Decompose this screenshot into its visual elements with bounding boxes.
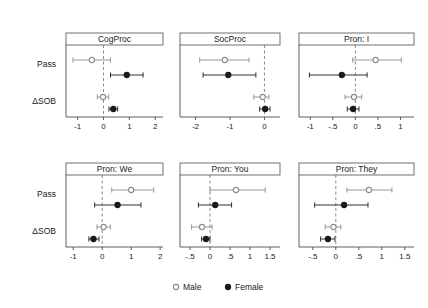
x-axis-tick-label: 0 — [262, 122, 267, 131]
point-marker-filled — [111, 106, 116, 111]
estimate-male-dsob — [97, 94, 108, 99]
x-axis-tick-label: .5 — [355, 252, 362, 261]
x-axis-tick-label: 0 — [101, 122, 106, 131]
panel-title: CogProc — [98, 34, 132, 44]
point-marker-filled — [124, 72, 129, 77]
point-marker-open — [199, 224, 204, 229]
legend: MaleFemale — [173, 282, 263, 292]
y-axis-category-label-dsob: ΔSOB — [32, 226, 56, 236]
y-axis-category-label-dsob: ΔSOB — [32, 96, 56, 106]
point-marker-filled — [213, 202, 218, 207]
point-marker-open — [331, 224, 336, 229]
estimate-male-pass — [73, 57, 111, 62]
point-marker-open — [222, 57, 227, 62]
point-marker-filled — [226, 72, 231, 77]
point-marker-filled — [91, 236, 96, 241]
legend-marker-male — [173, 284, 178, 289]
x-axis-tick-label: -.5 — [308, 252, 318, 261]
y-axis-category-label-pass: Pass — [37, 59, 56, 69]
estimate-male-pass — [200, 57, 249, 62]
x-axis-tick-label: .5 — [227, 252, 234, 261]
forest-plot-figure: CogProc-1012SocProc-2-10Pron: I-1-.50.51… — [0, 0, 428, 308]
point-marker-open — [129, 187, 134, 192]
x-axis-tick-label: -.5 — [185, 252, 195, 261]
panel-pron-they: Pron: They-.50.511.5 — [299, 163, 414, 261]
estimate-female-pass — [203, 72, 256, 77]
estimate-female-dsob — [202, 236, 210, 241]
legend-marker-female — [225, 284, 230, 289]
x-axis-tick-label: 2 — [158, 252, 163, 261]
estimate-female-dsob — [260, 106, 270, 111]
point-marker-filled — [341, 202, 346, 207]
panel-socproc: SocProc-2-10 — [180, 33, 280, 131]
estimate-female-pass — [309, 72, 367, 77]
point-marker-open — [366, 187, 371, 192]
estimate-male-dsob — [192, 224, 212, 229]
point-marker-open — [351, 94, 356, 99]
panel-pron-i: Pron: I-1-.50.51 — [299, 33, 414, 131]
x-axis-tick-label: 1 — [398, 122, 403, 131]
x-axis-tick-label: 2 — [153, 122, 158, 131]
x-axis-tick-label: 0 — [334, 252, 339, 261]
point-marker-filled — [339, 72, 344, 77]
estimate-male-pass — [353, 57, 402, 62]
x-axis-tick-label: 0 — [100, 252, 105, 261]
x-axis-tick-label: 0 — [208, 252, 213, 261]
point-marker-open — [260, 94, 265, 99]
x-axis-tick-label: 1 — [380, 252, 385, 261]
x-axis-tick-label: 1 — [127, 122, 132, 131]
estimate-male-pass — [347, 187, 392, 192]
panel-pron-we: Pron: We-1012 — [66, 163, 163, 261]
panel-title: SocProc — [214, 34, 247, 44]
estimate-male-dsob — [345, 94, 362, 99]
estimate-male-dsob — [325, 224, 341, 229]
estimate-female-pass — [95, 202, 141, 207]
estimate-male-pass — [210, 187, 265, 192]
estimate-female-pass — [315, 202, 368, 207]
point-marker-filled — [351, 106, 356, 111]
estimate-female-dsob — [347, 106, 359, 111]
x-axis-tick-label: -2 — [192, 122, 200, 131]
x-axis-tick-label: -1 — [226, 122, 234, 131]
y-axis-category-label-pass: Pass — [37, 189, 56, 199]
point-marker-filled — [325, 236, 330, 241]
x-axis-tick-label: .5 — [375, 122, 382, 131]
estimate-female-dsob — [109, 106, 118, 111]
panel-pron-you: Pron: You-.50.511.5 — [180, 163, 280, 261]
point-marker-open — [233, 187, 238, 192]
x-axis-tick-label: 1 — [129, 252, 134, 261]
panel-cogproc: CogProc-1012 — [66, 33, 163, 131]
point-marker-open — [89, 57, 94, 62]
panel-title: Pron: You — [212, 164, 249, 174]
estimate-female-pass — [198, 202, 231, 207]
x-axis-tick-label: -1 — [74, 122, 82, 131]
estimate-male-dsob — [97, 224, 110, 229]
point-marker-open — [373, 57, 378, 62]
legend-label-female: Female — [235, 282, 264, 292]
panel-title: Pron: I — [344, 34, 369, 44]
x-axis-tick-label: -.5 — [328, 122, 338, 131]
panel-title: Pron: They — [336, 164, 378, 174]
point-marker-filled — [203, 236, 208, 241]
point-marker-filled — [115, 202, 120, 207]
point-marker-open — [100, 94, 105, 99]
x-axis-tick-label: 1.5 — [399, 252, 411, 261]
estimate-male-pass — [112, 187, 154, 192]
x-axis-tick-label: -1 — [307, 122, 315, 131]
estimate-female-dsob — [89, 236, 99, 241]
x-axis-tick-label: 0 — [353, 122, 358, 131]
estimate-male-dsob — [254, 94, 269, 99]
estimate-female-pass — [110, 72, 143, 77]
point-marker-filled — [263, 106, 268, 111]
legend-label-male: Male — [183, 282, 202, 292]
x-axis-tick-label: 1.5 — [264, 252, 276, 261]
panel-title: Pron: We — [97, 164, 133, 174]
x-axis-tick-label: 1 — [248, 252, 253, 261]
estimate-female-dsob — [321, 236, 335, 241]
x-axis-tick-label: -1 — [70, 252, 78, 261]
point-marker-open — [101, 224, 106, 229]
